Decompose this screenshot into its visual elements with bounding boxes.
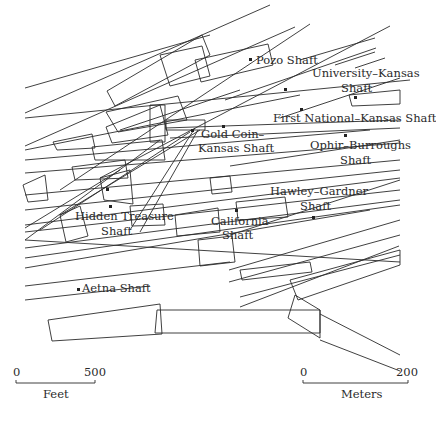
label-gold-coin-line1: Gold Coin– bbox=[201, 127, 264, 141]
shaft-marker-ophir-burroughs bbox=[344, 134, 347, 137]
shaft-marker-california bbox=[235, 209, 238, 212]
label-hawley-gardner-line1: Hawley–Gardner bbox=[270, 184, 368, 198]
shaft-marker-hidden-treasure-2 bbox=[106, 188, 109, 191]
scale-meters-end: 200 bbox=[396, 366, 418, 379]
shaft-marker-university-kansas bbox=[284, 88, 287, 91]
scale-bar-meters bbox=[303, 380, 408, 383]
label-pozo-shaft: Pozo Shaft bbox=[256, 53, 318, 67]
scale-bars bbox=[16, 380, 408, 383]
label-california-line1: California bbox=[211, 214, 269, 228]
shaft-markers bbox=[77, 58, 357, 291]
scale-meters-start: 0 bbox=[300, 366, 307, 379]
shaft-marker-aetna bbox=[77, 288, 80, 291]
label-university-kansas-line1: University–Kansas bbox=[312, 66, 420, 80]
label-hawley-gardner-line2: Shaft bbox=[300, 199, 331, 213]
scale-feet-start: 0 bbox=[13, 366, 20, 379]
shaft-marker-gold-coin bbox=[191, 129, 194, 132]
label-ophir-burroughs-line2: Shaft bbox=[340, 153, 371, 167]
scale-bar-feet bbox=[16, 380, 95, 383]
shaft-marker-university-kansas-2 bbox=[354, 96, 357, 99]
label-university-kansas-line2: Shaft bbox=[341, 81, 372, 95]
label-aetna-shaft: Aetna Shaft bbox=[82, 281, 151, 295]
scale-feet-end: 500 bbox=[84, 366, 106, 379]
label-california-line2: Shaft bbox=[222, 228, 253, 242]
label-first-national-kansas-shaft: First National–Kansas Shaft bbox=[273, 111, 436, 125]
label-hidden-treasure-line2: Shaft bbox=[101, 224, 132, 238]
label-gold-coin-line2: Kansas Shaft bbox=[198, 141, 274, 155]
scale-feet-unit: Feet bbox=[43, 388, 69, 401]
scale-meters-unit: Meters bbox=[341, 388, 382, 401]
shaft-marker-hidden-treasure bbox=[109, 205, 112, 208]
label-ophir-burroughs-line1: Ophir–Burroughs bbox=[310, 138, 411, 152]
shaft-marker-hawley-gardner bbox=[312, 216, 315, 219]
label-hidden-treasure-line1: Hidden Treasure bbox=[75, 209, 174, 223]
shaft-marker-pozo bbox=[249, 58, 252, 61]
